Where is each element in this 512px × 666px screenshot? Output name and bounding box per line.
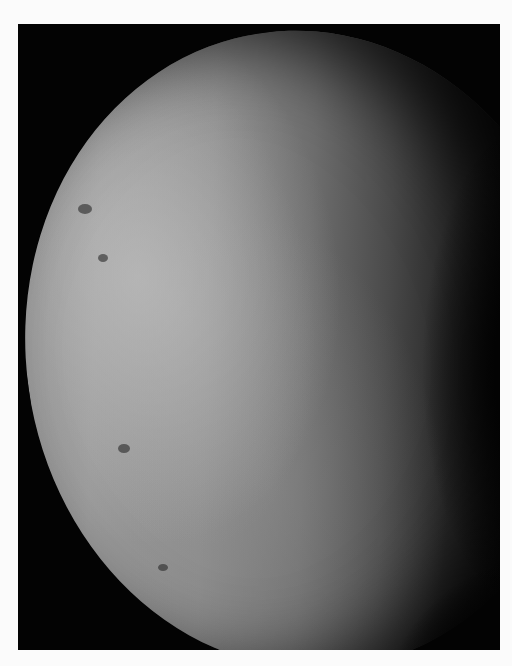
photo-frame: moon-like planetary body, crescent-gibbo… [18, 24, 500, 650]
lower-right-shadow [258, 444, 500, 650]
surface-spot [98, 254, 108, 262]
surface-spot [118, 444, 130, 453]
surface-spot [78, 204, 92, 214]
surface-spot [158, 564, 168, 571]
